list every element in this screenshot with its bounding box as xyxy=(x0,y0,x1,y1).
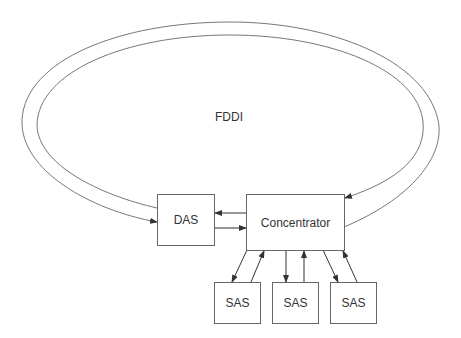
fddi-ring-label: FDDI xyxy=(214,110,244,124)
arrow-concentrator-to-sas3 xyxy=(323,250,338,282)
concentrator-label: Concentrator xyxy=(261,216,330,230)
arrow-sas3-to-concentrator xyxy=(343,251,357,282)
sas-node-1: SAS xyxy=(214,282,261,324)
arrow-concentrator-to-sas1 xyxy=(232,250,247,282)
sas-node-3: SAS xyxy=(330,282,377,324)
concentrator-node: Concentrator xyxy=(246,194,345,251)
das-label: DAS xyxy=(174,213,199,227)
sas-label-2: SAS xyxy=(283,296,307,310)
fddi-outer-ring xyxy=(22,22,439,227)
das-node: DAS xyxy=(157,194,215,246)
sas-node-2: SAS xyxy=(272,282,319,324)
sas-label-1: SAS xyxy=(225,296,249,310)
sas-label-3: SAS xyxy=(341,296,365,310)
arrow-sas1-to-concentrator xyxy=(251,251,264,282)
